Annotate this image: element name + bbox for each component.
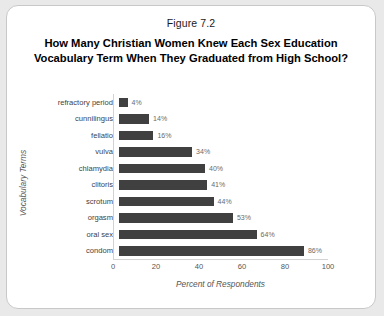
bar-track: 64% — [119, 226, 365, 243]
bar-value-label: 86% — [308, 247, 322, 254]
bar-row: scrotum44% — [35, 193, 365, 210]
bar-row: cunnilingus14% — [35, 111, 365, 128]
bar-row: refractory period4% — [35, 94, 365, 111]
bar-track: 40% — [119, 160, 365, 177]
bar-value-label: 14% — [153, 115, 167, 122]
x-tick-label: 60 — [238, 262, 246, 271]
bar-value-label: 53% — [237, 214, 251, 221]
bar-track: 41% — [119, 177, 365, 194]
x-tick-label: 100 — [322, 262, 335, 271]
bar-fill — [119, 131, 153, 141]
bar-category-label: vulva — [35, 147, 119, 156]
bar-fill — [119, 98, 128, 108]
x-tick-label: 80 — [281, 262, 289, 271]
bar-fill — [119, 164, 205, 174]
x-axis-line — [113, 259, 328, 260]
bar-fill — [119, 114, 149, 124]
bar-category-label: cunnilingus — [35, 114, 119, 123]
bar-category-label: orgasm — [35, 213, 119, 222]
bar-value-label: 4% — [132, 99, 142, 106]
bar-category-label: oral sex — [35, 230, 119, 239]
bar-row: clitoris41% — [35, 177, 365, 194]
bar-chart-bars: refractory period4%cunnilingus14%fellati… — [35, 94, 365, 259]
figure-caption: Figure 7.2 — [7, 17, 375, 29]
bar-category-label: condom — [35, 246, 119, 255]
bar-fill — [119, 213, 233, 223]
bar-value-label: 41% — [211, 181, 225, 188]
chart-title-line-2: Vocabulary Term When They Graduated from… — [15, 51, 367, 66]
bar-category-label: fellatio — [35, 131, 119, 140]
x-tick-label: 40 — [195, 262, 203, 271]
figure-card: Figure 7.2 How Many Christian Women Knew… — [6, 5, 376, 309]
bar-fill — [119, 180, 207, 190]
bar-value-label: 44% — [218, 198, 232, 205]
bar-track: 34% — [119, 144, 365, 161]
x-tick-label: 0 — [111, 262, 115, 271]
bar-track: 16% — [119, 127, 365, 144]
bar-track: 14% — [119, 111, 365, 128]
y-axis-line — [113, 94, 114, 259]
x-tick-label: 20 — [152, 262, 160, 271]
bar-category-label: chlamydia — [35, 164, 119, 173]
bar-fill — [119, 197, 214, 207]
y-axis-title: Vocabulary Terms — [18, 143, 28, 223]
chart-title: How Many Christian Women Knew Each Sex E… — [7, 36, 375, 66]
bar-value-label: 40% — [209, 165, 223, 172]
bar-track: 86% — [119, 243, 365, 260]
bar-value-label: 64% — [261, 231, 275, 238]
bar-row: fellatio16% — [35, 127, 365, 144]
bar-row: condom86% — [35, 243, 365, 260]
bar-row: oral sex64% — [35, 226, 365, 243]
x-axis-title: Percent of Respondents — [113, 279, 328, 289]
bar-track: 4% — [119, 94, 365, 111]
bar-fill — [119, 230, 257, 240]
bar-row: chlamydia40% — [35, 160, 365, 177]
bar-row: vulva34% — [35, 144, 365, 161]
bar-track: 53% — [119, 210, 365, 227]
chart-title-line-1: How Many Christian Women Knew Each Sex E… — [15, 36, 367, 51]
bar-track: 44% — [119, 193, 365, 210]
bar-row: orgasm53% — [35, 210, 365, 227]
x-axis-ticks: 020406080100 — [113, 262, 328, 276]
bar-fill — [119, 147, 192, 157]
bar-category-label: scrotum — [35, 197, 119, 206]
bar-value-label: 16% — [157, 132, 171, 139]
plot-area: Vocabulary Terms refractory period4%cunn… — [7, 94, 377, 304]
bar-fill — [119, 246, 304, 256]
bar-category-label: refractory period — [35, 98, 119, 107]
bar-value-label: 34% — [196, 148, 210, 155]
bar-category-label: clitoris — [35, 180, 119, 189]
